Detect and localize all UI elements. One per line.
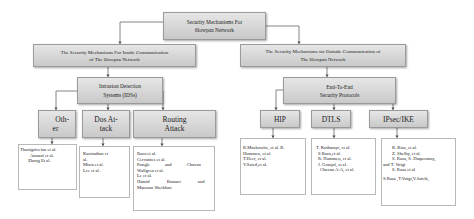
dos-line-2: tack xyxy=(100,124,113,133)
routing-refs-box: Raza et al. Cervantes et al. Pongle and … xyxy=(133,146,215,211)
root-line-1: Security Mechanisms For xyxy=(187,18,242,26)
hip-label: HIP xyxy=(274,115,286,124)
other-refs-box: Thanigaivelan et al. Amaral et al. Zhang… xyxy=(18,144,77,190)
dos-line-1: Dos At- xyxy=(94,115,118,124)
inside-line-2: of The 6lowpan Network xyxy=(89,56,139,63)
dtls-node: DTLS xyxy=(311,110,351,128)
ids-node: Intrusion Detection Systems (IDSs) xyxy=(77,77,163,104)
ids-line-2: Systems (IDSs) xyxy=(103,91,137,100)
outside-communication-node: The Security Mechanisms for Outside Comm… xyxy=(240,44,406,67)
other-line-1: Oth- xyxy=(55,115,69,124)
ref-item: Hamid Bostani and xyxy=(137,179,211,185)
other-line-2: er xyxy=(53,124,59,133)
ids-line-1: Intrusion Detection xyxy=(99,82,141,91)
ref-item: Chavan A-A, et al. xyxy=(316,167,371,173)
ref-item: S.Raza ,T.Voigt,V.Jutvik, xyxy=(383,176,454,182)
dos-refs-box: Kasinathan et al. Misra et al. Lee et al… xyxy=(79,146,130,198)
ref-item: Lee et al . xyxy=(83,168,126,174)
ref-item: V.Saied,et al. xyxy=(243,162,303,168)
ref-item: S. Raza et al xyxy=(383,167,454,173)
inside-communication-node: The Security Mechanisms For Inside Commu… xyxy=(33,44,196,67)
e2e-line-2: Security Protocols xyxy=(320,91,360,99)
ref-item: Zhang Et al. xyxy=(20,158,75,164)
inside-line-1: The Security Mechanisms For Inside Commu… xyxy=(61,49,168,56)
end-to-end-node: End-To-End Security Protocols xyxy=(283,77,396,104)
ipsec-refs-box: R. Riaz, et al. Z. Shelby, et al. S. Raz… xyxy=(381,138,456,206)
routing-line-2: Attack xyxy=(165,124,185,133)
outside-line-2: The 6lowpan Network xyxy=(301,56,346,64)
routing-attack-node: Routing Attack xyxy=(133,110,216,138)
dtls-label: DTLS xyxy=(322,115,341,124)
routing-line-1: Routing xyxy=(162,115,186,124)
e2e-line-1: End-To-End xyxy=(326,83,353,91)
hip-node: HIP xyxy=(260,110,300,128)
root-node: Security Mechanisms For 6lowpan Network xyxy=(163,12,266,40)
dtls-refs-box: T. Kothmayr, et al. S.Raza,et al. R. Hum… xyxy=(311,138,376,195)
other-node: Oth- er xyxy=(38,110,76,138)
dos-attack-node: Dos At- tack xyxy=(82,110,130,138)
ipsec-label: IPsec/IKE xyxy=(383,115,414,124)
ipsec-ike-node: IPsec/IKE xyxy=(369,110,428,128)
outside-line-1: The Security Mechanisms for Outside Comm… xyxy=(266,48,381,56)
ref-item: Pongle and Chavan xyxy=(137,162,211,168)
hip-refs-box: R.Moskowitz, et al. R. Hummen, et al. T.… xyxy=(240,138,306,195)
root-line-2: 6lowpan Network xyxy=(195,26,234,34)
ref-item: Mansour Sheikhan xyxy=(137,185,211,191)
